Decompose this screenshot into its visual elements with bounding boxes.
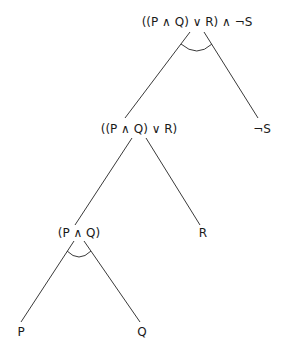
edge-and-to-p	[21, 241, 74, 322]
edge-or-to-r	[146, 138, 200, 225]
and-arc-p-and-q	[67, 251, 91, 257]
edge-root-to-or	[125, 32, 190, 118]
node-root: ((P ∧ Q) ∨ R) ∧ ¬S	[142, 15, 253, 29]
node-r: R	[199, 226, 207, 240]
node-q: Q	[137, 325, 146, 339]
and-or-tree-diagram: ((P ∧ Q) ∨ R) ∧ ¬S ((P ∧ Q) ∨ R) ¬S (P ∧…	[0, 0, 283, 355]
node-not-s: ¬S	[253, 122, 271, 136]
edge-and-to-q	[84, 241, 140, 322]
and-arc-root	[181, 44, 212, 51]
node-or: ((P ∧ Q) ∨ R)	[101, 122, 178, 136]
edge-root-to-not-s	[204, 32, 258, 118]
node-p: P	[17, 325, 24, 339]
edge-or-to-and	[75, 138, 132, 225]
node-p-and-q: (P ∧ Q)	[58, 226, 100, 240]
